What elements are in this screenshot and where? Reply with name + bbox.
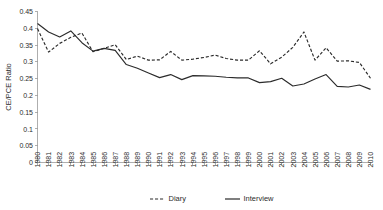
y-tick-label: 0.4 — [23, 25, 33, 32]
x-tick-label: 1996 — [212, 152, 219, 168]
x-tick-label: 2005 — [312, 152, 319, 168]
series-line-interview — [38, 24, 371, 90]
x-tick-label: 1995 — [201, 152, 208, 168]
x-tick-label: 2008 — [345, 152, 352, 168]
chart-legend: DiaryInterview — [150, 194, 274, 203]
x-tick-label: 1989 — [134, 152, 141, 168]
x-tick-label: 2009 — [356, 152, 363, 168]
y-tick-label: 0.1 — [23, 126, 33, 133]
y-tick-label: 0.2 — [23, 92, 33, 99]
x-tick-label: 2002 — [278, 152, 285, 168]
x-tick-label: 1998 — [234, 152, 241, 168]
y-axis-title: CE/PCE Ratio — [4, 63, 13, 111]
y-tick-label: 0 — [29, 159, 33, 166]
x-tick-label: 2007 — [334, 152, 341, 168]
x-tick-label: 1980 — [34, 152, 41, 168]
x-tick-label: 2006 — [323, 152, 330, 168]
x-tick-label: 1990 — [145, 152, 152, 168]
x-tick-label: 1994 — [190, 152, 197, 168]
line-chart: 00.050.10.150.20.250.30.350.40.45 198019… — [0, 0, 383, 210]
x-tick-label: 1983 — [68, 152, 75, 168]
x-tick-label: 1997 — [223, 152, 230, 168]
y-tick-label: 0.25 — [19, 75, 33, 82]
chart-container: 00.050.10.150.20.250.30.350.40.45 198019… — [0, 0, 383, 210]
x-axis: 1980198119821983198419851986198719881989… — [34, 152, 374, 168]
x-tick-label: 1985 — [90, 152, 97, 168]
x-tick-label: 1999 — [245, 152, 252, 168]
y-tick-label: 0.05 — [19, 142, 33, 149]
x-tick-label: 1992 — [167, 152, 174, 168]
x-tick-label: 1988 — [123, 152, 130, 168]
y-tick-label: 0.45 — [19, 8, 33, 15]
x-tick-label: 1986 — [101, 152, 108, 168]
y-tick-label: 0.35 — [19, 42, 33, 49]
x-tick-label: 2001 — [267, 152, 274, 168]
x-tick-label: 1993 — [179, 152, 186, 168]
x-tick-label: 1982 — [56, 152, 63, 168]
legend-label-interview: Interview — [244, 194, 275, 203]
x-tick-label: 1981 — [45, 152, 52, 168]
series-line-diary — [38, 29, 371, 79]
x-tick-label: 1991 — [156, 152, 163, 168]
x-tick-label: 1987 — [112, 152, 119, 168]
y-tick-label: 0.15 — [19, 109, 33, 116]
y-tick-label: 0.3 — [23, 58, 33, 65]
x-tick-label: 2004 — [301, 152, 308, 168]
y-axis: 00.050.10.150.20.250.30.350.40.45 — [19, 8, 37, 166]
series-lines — [38, 24, 371, 90]
x-tick-label: 1984 — [79, 152, 86, 168]
legend-label-diary: Diary — [169, 194, 187, 203]
x-tick-label: 2010 — [367, 152, 374, 168]
x-tick-label: 2003 — [290, 152, 297, 168]
x-tick-label: 2000 — [256, 152, 263, 168]
